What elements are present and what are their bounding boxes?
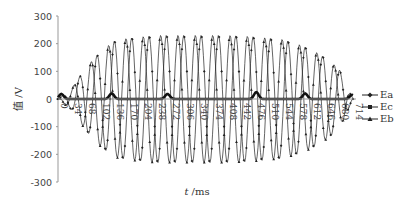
x-tick-label: 306 (185, 103, 195, 120)
x-tick-label: 340 (199, 103, 209, 120)
x-tick-label: 204 (143, 103, 153, 120)
x-tick-label: 272 (171, 103, 181, 120)
series-layer (57, 36, 355, 164)
chart-legend: Ea Ec Eb (362, 89, 394, 125)
legend-item-eb: Eb (362, 113, 394, 125)
legend-item-ea: Ea (362, 89, 394, 101)
x-tick-label: 646 (326, 103, 336, 120)
x-tick-label: 442 (242, 103, 252, 120)
legend-label-eb: Eb (380, 113, 394, 125)
y-tick-label: -100 (30, 121, 52, 132)
diamond-marker-icon (362, 91, 378, 99)
x-tick-label: 0 (59, 103, 69, 109)
y-tick-label: 300 (34, 11, 52, 22)
y-tick-label: 100 (34, 66, 52, 77)
x-tick-label: 544 (284, 103, 294, 120)
y-axis-ticks: 3002001000-100-200-300 (30, 11, 58, 188)
x-axis-label: t /ms (184, 186, 209, 197)
x-axis-ticks: 0346810213617020423827230634037440844247… (59, 103, 364, 120)
x-tick-label: 476 (256, 103, 266, 120)
y-tick-label: -200 (30, 149, 52, 160)
x-tick-label: 578 (298, 103, 308, 120)
y-axis-label: 值 /V (12, 86, 24, 111)
y-tick-label: -300 (30, 177, 52, 188)
legend-label-ec: Ec (380, 101, 393, 113)
x-tick-label: 612 (312, 103, 322, 120)
x-tick-label: 34 (73, 103, 83, 115)
x-tick-label: 680 (340, 103, 350, 120)
x-tick-label: 374 (214, 103, 224, 120)
x-tick-label: 238 (157, 103, 167, 120)
x-axis-label-unit: /ms (188, 186, 209, 197)
y-tick-label: 0 (46, 94, 52, 105)
x-tick-label: 68 (87, 103, 97, 115)
x-tick-label: 136 (115, 103, 125, 120)
triangle-marker-icon (362, 115, 378, 123)
legend-item-ec: Ec (362, 101, 394, 113)
x-tick-label: 510 (270, 103, 280, 120)
x-tick-label: 102 (101, 103, 111, 120)
square-marker-icon (362, 103, 378, 111)
x-tick-label: 170 (129, 103, 139, 120)
x-tick-label: 408 (228, 103, 238, 120)
legend-label-ea: Ea (380, 89, 393, 101)
line-chart: 3002001000-100-200-300 03468102136170204… (0, 0, 405, 205)
y-tick-label: 200 (34, 38, 52, 49)
